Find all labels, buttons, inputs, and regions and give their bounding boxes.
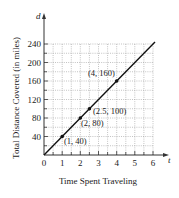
x-tick-label: 5 (133, 158, 138, 168)
data-line (44, 42, 155, 155)
point-label: (1, 40) (64, 136, 87, 146)
x-tick-label: 2 (78, 158, 83, 168)
origin-label: 0 (42, 158, 47, 168)
y-tick-label: 40 (32, 132, 42, 142)
x-tick-label: 3 (96, 158, 101, 168)
y-tick-label: 200 (28, 58, 42, 68)
x-tick-label: 6 (151, 158, 156, 168)
point-label: (2, 80) (81, 118, 104, 128)
y-tick-label: 240 (28, 39, 42, 49)
y-variable-label: d (36, 11, 41, 21)
x-tick-label: 1 (60, 158, 65, 168)
y-axis-title: Total Distance Covered (in miles) (11, 37, 21, 159)
data-point (115, 79, 119, 83)
x-variable-label: t (168, 155, 171, 165)
point-label: (2.5, 100) (93, 106, 126, 116)
y-tick-label: 160 (28, 76, 42, 86)
data-point (88, 107, 92, 111)
x-axis-title: Time Spent Traveling (59, 176, 138, 186)
distance-time-chart: (1, 40) (2, 80) (2.5, 100) (4, 160) 40 8… (0, 0, 179, 198)
point-label: (4, 160) (88, 68, 115, 78)
y-tick-label: 120 (28, 95, 42, 105)
y-axis-arrow-icon (42, 13, 46, 19)
y-tick-label: 80 (32, 113, 42, 123)
x-tick-label: 4 (114, 158, 119, 168)
